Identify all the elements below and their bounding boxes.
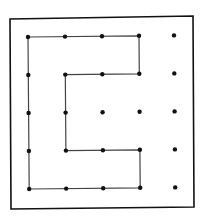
- grid-dot: [63, 110, 67, 114]
- grid-dot: [137, 34, 141, 38]
- grid-dot: [101, 186, 105, 190]
- grid-dots: [26, 33, 178, 191]
- grid-dot: [101, 148, 105, 152]
- grid-dot: [64, 148, 68, 152]
- grid-dot: [173, 147, 177, 151]
- grid-dot: [172, 109, 176, 113]
- grid-dot: [100, 110, 104, 114]
- grid-dot: [27, 149, 31, 153]
- grid-dot: [27, 187, 31, 191]
- grid-dot: [173, 185, 177, 189]
- grid-dot: [138, 148, 142, 152]
- polygon-path: [28, 36, 140, 189]
- grid-dot: [172, 33, 176, 37]
- grid-dot: [100, 34, 104, 38]
- grid-dot: [64, 186, 68, 190]
- grid-dot: [137, 72, 141, 76]
- grid-dot: [63, 72, 67, 76]
- grid-dot: [26, 111, 30, 115]
- dot-grid-diagram: [0, 0, 202, 216]
- grid-dot: [100, 72, 104, 76]
- grid-dot: [137, 110, 141, 114]
- grid-dot: [26, 35, 30, 39]
- grid-dot: [26, 73, 30, 77]
- grid-dot: [172, 71, 176, 75]
- grid-dot: [63, 34, 67, 38]
- grid-dot: [138, 186, 142, 190]
